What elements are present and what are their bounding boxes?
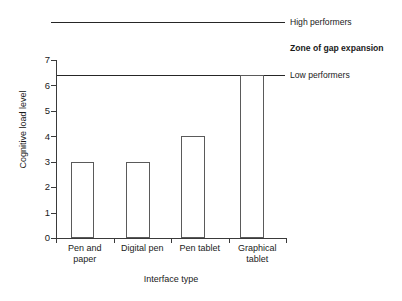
zone-of-gap-expansion-label: Zone of gap expansion	[290, 44, 384, 53]
x-tick-4	[286, 238, 287, 243]
x-category-label-line1: Digital pen	[114, 243, 172, 254]
x-axis-title: Interface type	[56, 275, 286, 284]
x-category-label-line2: paper	[56, 254, 114, 265]
x-category-label-line1: Pen and	[56, 243, 114, 254]
bar-graphical-tablet[interactable]	[240, 75, 264, 238]
low-performers-label: Low performers	[290, 71, 350, 80]
y-tick-2	[51, 187, 56, 188]
y-tick-label-5: 5	[28, 106, 50, 116]
y-tick-label-3: 3	[28, 157, 50, 167]
y-tick-label-1: 1	[28, 208, 50, 218]
x-category-label-graphical-tablet: Graphical tablet	[229, 243, 287, 264]
x-category-label-line1: Pen tablet	[171, 243, 229, 254]
bar-pen-and-paper[interactable]	[71, 162, 94, 238]
x-category-label-digital-pen: Digital pen	[114, 243, 172, 254]
x-category-label-line1: Graphical	[229, 243, 287, 254]
y-tick-label-4: 4	[28, 132, 50, 142]
y-tick-3	[51, 162, 56, 163]
bar-pen-tablet[interactable]	[181, 136, 205, 238]
y-tick-label-6: 6	[28, 81, 50, 91]
y-axis-title: Cognitive load level	[19, 60, 28, 200]
y-axis-line	[56, 60, 57, 239]
bar-digital-pen[interactable]	[126, 162, 150, 238]
y-tick-4	[51, 136, 56, 137]
y-tick-6	[51, 85, 56, 86]
x-category-label-pen-tablet: Pen tablet	[171, 243, 229, 254]
x-category-label-pen-and-paper: Pen and paper	[56, 243, 114, 264]
y-tick-label-0: 0	[28, 233, 50, 243]
x-category-label-line2: tablet	[229, 254, 287, 265]
y-tick-1	[51, 213, 56, 214]
y-tick-7	[51, 60, 56, 61]
y-tick-label-2: 2	[28, 182, 50, 192]
bar-chart-figure: High performers Zone of gap expansion Lo…	[0, 0, 402, 301]
y-tick-5	[51, 111, 56, 112]
high-performers-reference-line	[51, 22, 285, 23]
y-tick-label-7: 7	[28, 55, 50, 65]
y-tick-label-group: 7 6 5 4 3 2 1 0	[26, 0, 50, 301]
high-performers-label: High performers	[290, 18, 352, 27]
